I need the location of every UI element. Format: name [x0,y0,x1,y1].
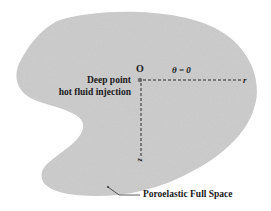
leader-dot-icon [107,186,109,188]
origin-point [138,78,142,82]
diagram-canvas [0,0,271,211]
source-label-line1: Deep point [87,76,131,86]
source-label-line2: hot fluid injection [59,88,131,98]
origin-label: O [136,64,144,74]
r-axis-label: r [243,76,247,85]
poroelastic-region [16,12,256,196]
region-label: Poroelastic Full Space [143,190,233,200]
z-axis-label: z [136,158,144,161]
theta-label: θ = 0 [172,66,191,75]
